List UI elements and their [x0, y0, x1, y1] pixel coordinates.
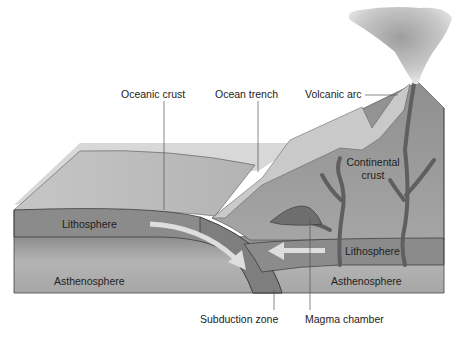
lithosphere-left-label: Lithosphere	[62, 218, 117, 230]
subduction-zone-label: Subduction zone	[200, 313, 278, 325]
asthenosphere-right-label: Asthenosphere	[331, 275, 402, 287]
oceanic-crust-label: Oceanic crust	[121, 88, 185, 100]
asthenosphere-left-label: Asthenosphere	[54, 275, 125, 287]
ocean-floor-surface	[14, 151, 255, 216]
continental-crust-label-line2: crust	[345, 169, 401, 181]
volcanic-arc-label: Volcanic arc	[305, 88, 362, 100]
subduction-diagram: Oceanic crust Ocean trench Volcanic arc …	[0, 0, 457, 340]
continental-crust-label-line1: Continental	[345, 156, 401, 168]
magma-chamber-label: Magma chamber	[305, 313, 384, 325]
smoke-plume	[349, 7, 452, 84]
lithosphere-right-label: Lithosphere	[345, 245, 400, 257]
ocean-trench-label: Ocean trench	[215, 88, 278, 100]
